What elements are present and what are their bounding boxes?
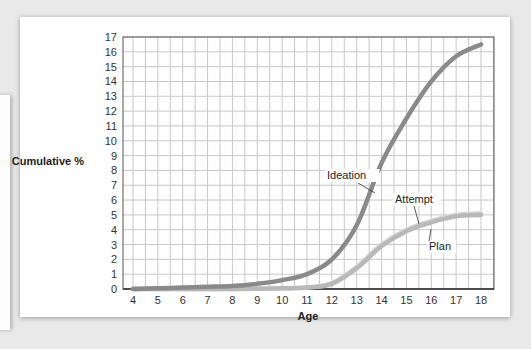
x-axis-ticks: 456789101112131415161718: [130, 294, 487, 306]
x-tick-label: 5: [155, 294, 161, 306]
x-tick-label: 8: [229, 294, 235, 306]
x-tick-label: 15: [400, 294, 412, 306]
x-tick-label: 18: [475, 294, 487, 306]
y-tick-label: 0: [111, 283, 117, 295]
x-tick-label: 13: [351, 294, 363, 306]
y-tick-label: 9: [111, 150, 117, 162]
y-tick-label: 15: [105, 61, 117, 73]
x-tick-label: 12: [326, 294, 338, 306]
annotation-ideation: Ideation: [327, 169, 366, 181]
annotation-plan: Plan: [429, 240, 451, 252]
x-tick-label: 4: [130, 294, 136, 306]
y-tick-label: 5: [111, 209, 117, 221]
x-tick-label: 16: [425, 294, 437, 306]
x-tick-label: 17: [450, 294, 462, 306]
y-tick-label: 10: [105, 135, 117, 147]
line-chart: 01234567891011121314151617 4567891011121…: [0, 0, 531, 349]
y-tick-label: 13: [105, 90, 117, 102]
y-tick-label: 8: [111, 164, 117, 176]
y-tick-label: 7: [111, 179, 117, 191]
y-tick-label: 16: [105, 46, 117, 58]
annotation-attempt: Attempt: [395, 193, 433, 205]
y-axis-ticks: 01234567891011121314151617: [105, 31, 117, 295]
x-tick-label: 7: [205, 294, 211, 306]
y-tick-label: 14: [105, 75, 117, 87]
x-tick-label: 14: [375, 294, 387, 306]
y-tick-label: 17: [105, 31, 117, 43]
x-axis-title: Age: [298, 310, 319, 322]
y-tick-label: 2: [111, 253, 117, 265]
x-tick-label: 6: [180, 294, 186, 306]
x-tick-label: 11: [301, 294, 312, 306]
y-tick-label: 12: [105, 105, 117, 117]
x-tick-label: 9: [254, 294, 260, 306]
y-tick-label: 4: [111, 224, 117, 236]
y-tick-label: 6: [111, 194, 117, 206]
x-tick-label: 10: [276, 294, 288, 306]
y-tick-label: 11: [106, 120, 117, 132]
y-tick-label: 1: [111, 268, 117, 280]
y-axis-title: Cumulative %: [12, 155, 84, 167]
y-tick-label: 3: [111, 239, 117, 251]
